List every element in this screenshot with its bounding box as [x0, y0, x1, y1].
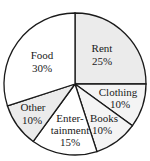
label-food-name: Food	[31, 49, 54, 61]
label-entertainment-name-1: Enter-	[56, 112, 84, 124]
label-clothing-name: Clothing	[99, 86, 138, 98]
label-food-pct: 30%	[32, 62, 52, 74]
pie-chart: Rent 25% Clothing 10% Books 10% Enter- t…	[0, 0, 150, 161]
slice-label-other: Other 10%	[20, 101, 45, 126]
label-rent-name: Rent	[92, 42, 113, 54]
slice-label-rent: Rent 25%	[92, 42, 113, 67]
label-entertainment-name-2: tainment	[51, 124, 90, 136]
label-rent-pct: 25%	[92, 55, 112, 67]
slice-label-food: Food 30%	[31, 49, 54, 74]
label-other-name: Other	[20, 101, 45, 113]
label-clothing-pct: 10%	[110, 98, 130, 110]
label-books-name: Books	[90, 112, 118, 124]
label-entertainment-pct: 15%	[60, 136, 80, 148]
label-other-pct: 10%	[22, 114, 42, 126]
label-books-pct: 10%	[92, 124, 112, 136]
